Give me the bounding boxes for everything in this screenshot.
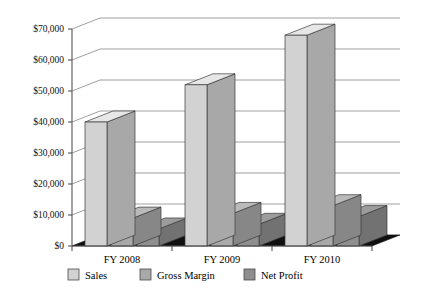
legend-swatch — [68, 269, 79, 280]
bar-front-face — [85, 122, 107, 246]
x-category-label: FY 2009 — [204, 254, 241, 265]
x-category-label: FY 2010 — [304, 254, 341, 265]
y-tick-label: $60,000 — [33, 55, 64, 65]
bar-side-face — [307, 24, 335, 246]
legend-label: Gross Margin — [157, 270, 216, 281]
y-axis — [68, 29, 72, 246]
legend-item[interactable]: Gross Margin — [140, 269, 216, 281]
bar — [185, 74, 235, 246]
y-tick-label: $0 — [55, 241, 65, 251]
bar — [85, 111, 135, 246]
bar-side-face — [107, 111, 135, 246]
category-labels: FY 2008FY 2009FY 2010 — [104, 254, 341, 265]
y-tick-label: $30,000 — [33, 148, 64, 158]
bar — [285, 24, 335, 246]
y-tick-label: $10,000 — [33, 210, 64, 220]
bar-chart: $0$10,000$20,000$30,000$40,000$50,000$60… — [0, 0, 423, 302]
legend-item[interactable]: Net Profit — [244, 269, 303, 281]
bar-front-face — [285, 35, 307, 246]
chart-legend: SalesGross MarginNet Profit — [68, 269, 303, 281]
x-category-label: FY 2008 — [104, 254, 141, 265]
legend-label: Sales — [85, 270, 107, 281]
y-tick-label: $70,000 — [33, 24, 64, 34]
y-tick-labels: $0$10,000$20,000$30,000$40,000$50,000$60… — [33, 24, 64, 251]
legend-label: Net Profit — [261, 270, 303, 281]
bar-side-face — [207, 74, 235, 246]
y-tick-label: $40,000 — [33, 117, 64, 127]
y-tick-label: $20,000 — [33, 179, 64, 189]
y-tick-label: $50,000 — [33, 86, 64, 96]
bar-front-face — [185, 85, 207, 246]
legend-swatch — [140, 269, 151, 280]
legend-item[interactable]: Sales — [68, 269, 107, 281]
legend-swatch — [244, 269, 255, 280]
chart-canvas: $0$10,000$20,000$30,000$40,000$50,000$60… — [0, 0, 423, 302]
